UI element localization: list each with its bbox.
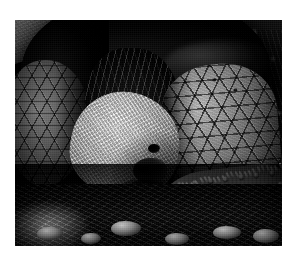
foreground-shadow [15, 164, 282, 216]
page-root [0, 0, 293, 267]
photograph [15, 20, 282, 246]
